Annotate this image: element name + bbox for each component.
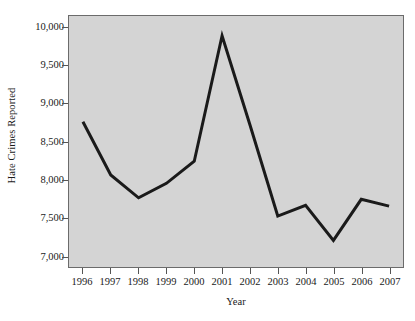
y-axis-tick-mark <box>62 180 68 181</box>
y-axis-tick-mark <box>62 218 68 219</box>
plot-svg <box>69 16 403 267</box>
y-axis-tick-label: 8,500 <box>16 137 64 147</box>
y-axis-tick-mark <box>62 65 68 66</box>
x-axis-tick-mark <box>222 268 223 274</box>
x-axis-tick-mark <box>138 268 139 274</box>
y-axis-tick-label: 7,000 <box>16 252 64 262</box>
x-axis-tick-mark <box>250 268 251 274</box>
y-axis-tick-mark <box>62 142 68 143</box>
x-axis-title: Year <box>68 296 404 307</box>
x-axis-tick-mark <box>390 268 391 274</box>
y-axis-tick-mark <box>62 257 68 258</box>
y-axis-tick-label: 8,000 <box>16 175 64 185</box>
plot-area <box>68 15 404 268</box>
x-axis-tick-mark <box>334 268 335 274</box>
y-axis-tick-labels: 7,0007,5008,0008,5009,0009,50010,000 <box>12 0 64 321</box>
hate-crimes-line-chart: Hate Crimes Reported 7,0007,5008,0008,50… <box>0 0 415 321</box>
x-axis-tick-mark <box>110 268 111 274</box>
x-axis-title-text: Year <box>226 296 245 307</box>
x-axis-tick-mark <box>278 268 279 274</box>
y-axis-tick-mark <box>62 27 68 28</box>
y-axis-tick-label: 10,000 <box>16 22 64 32</box>
x-axis-tick-label: 2007 <box>373 276 407 287</box>
data-series-line <box>83 36 389 241</box>
x-axis-tick-mark <box>306 268 307 274</box>
y-axis-tick-mark <box>62 103 68 104</box>
y-axis-tick-label: 7,500 <box>16 213 64 223</box>
x-axis-tick-mark <box>194 268 195 274</box>
x-axis-tick-mark <box>362 268 363 274</box>
x-axis-tick-mark <box>166 268 167 274</box>
y-axis-tick-label: 9,000 <box>16 98 64 108</box>
y-axis-tick-label: 9,500 <box>16 60 64 70</box>
x-axis-tick-mark <box>82 268 83 274</box>
